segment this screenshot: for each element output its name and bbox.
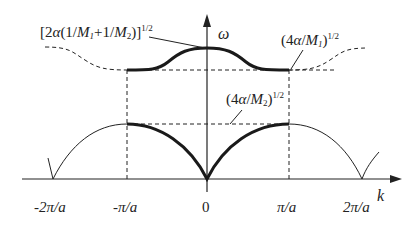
optical-top-annotation: [2α(1/M1+1/M2)]1/2 bbox=[40, 24, 153, 41]
k-axis-label: k bbox=[377, 188, 384, 204]
x-tick-neg-2pi-a: -2π/a bbox=[34, 200, 66, 215]
acoustic-branch bbox=[127, 124, 289, 179]
x-tick-zero: 0 bbox=[202, 200, 210, 215]
acoustic-top-leader bbox=[230, 110, 242, 124]
optical-bottom-leader bbox=[291, 50, 303, 69]
optical-top-leader bbox=[149, 37, 205, 48]
acoustic-top-annotation: (4α/M2)1/2 bbox=[226, 91, 284, 108]
x-tick-pi-a: π/a bbox=[277, 200, 296, 215]
next-zone-stub-right bbox=[362, 152, 379, 179]
omega-axis-arrow-icon bbox=[203, 14, 211, 27]
omega-axis-label: ω bbox=[218, 26, 229, 42]
next-zone-stub-left bbox=[48, 158, 53, 179]
optical-bottom-annotation: (4α/M1)1/2 bbox=[281, 32, 339, 49]
optical-branch-extended-right bbox=[289, 48, 368, 70]
acoustic-branch-extended-left bbox=[53, 124, 127, 179]
dispersion-diagram: ω k [2α(1/M1+1/M2)]1/2 (4α/M1)1/2 (4α/M2… bbox=[0, 0, 419, 226]
acoustic-branch-extended-right bbox=[289, 124, 362, 179]
optical-branch-extended-left bbox=[45, 47, 127, 70]
x-tick-2pi-a: 2π/a bbox=[343, 200, 370, 215]
k-axis-arrow-icon bbox=[390, 175, 402, 183]
x-tick-neg-pi-a: -π/a bbox=[113, 200, 137, 215]
optical-branch bbox=[127, 48, 289, 70]
